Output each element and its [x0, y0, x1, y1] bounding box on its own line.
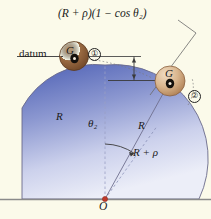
position-1-number: ①: [88, 48, 101, 61]
diagram-svg: [0, 0, 211, 219]
ball-2-center-dot: [169, 82, 172, 85]
datum-label: datum: [19, 47, 47, 59]
radius-vertical-label: R: [56, 110, 63, 122]
height-equation-label: (R + ρ)(1 − cos θ₂): [58, 7, 147, 19]
center-of-mass-1-label: G: [66, 44, 74, 56]
position-1-marker: ①: [88, 42, 101, 61]
height-arrow-top: [132, 58, 136, 63]
angle-theta2-label: θ₂: [88, 117, 97, 129]
figure-canvas: (R + ρ)(1 − cos θ₂) datum G ① G ② R R R …: [0, 0, 211, 219]
ball-1-group: [60, 42, 89, 71]
position-2-marker: ②: [188, 84, 201, 103]
ball-1-center-dot: [73, 57, 76, 60]
center-of-mass-2-label: G: [165, 67, 173, 79]
origin-label: O: [99, 200, 107, 212]
radius-plus-rho-label: R + ρ: [133, 146, 158, 158]
radius-angled-label: R: [138, 119, 145, 131]
position-2-number: ②: [188, 90, 201, 103]
